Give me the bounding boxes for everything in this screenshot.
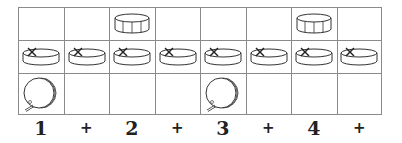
grid-cell[interactable] [246,40,292,73]
row-bass-drum [18,73,382,115]
grid-cell[interactable] [200,7,246,40]
grid-cell[interactable] [64,73,110,115]
grid-cell[interactable] [337,40,383,73]
count-beat: 2 [109,116,155,140]
row-snare [18,7,382,40]
hi-hat-icon [249,46,289,68]
grid-cell[interactable] [18,7,64,40]
grid-cell[interactable] [109,7,155,40]
grid-cell[interactable] [200,40,246,73]
beat-counts: 1+2+3+4+ [18,116,382,140]
grid-cell[interactable] [200,73,246,115]
hi-hat-icon [67,46,107,68]
grid-cell[interactable] [155,73,201,115]
grid-cell[interactable] [291,73,337,115]
grid-cell[interactable] [109,40,155,73]
grid-cell[interactable] [337,7,383,40]
grid-cell[interactable] [155,7,201,40]
grid-cell[interactable] [64,7,110,40]
count-and: + [64,116,110,140]
grid-cell[interactable] [18,40,64,73]
count-and: + [337,116,383,140]
grid-cell[interactable] [291,7,337,40]
grid-cell[interactable] [291,40,337,73]
row-hi-hat [18,40,382,73]
grid-cell[interactable] [337,73,383,115]
hi-hat-icon [112,46,152,68]
grid-cell[interactable] [109,73,155,115]
bass-drum-icon [22,75,60,113]
hi-hat-icon [339,46,379,68]
count-beat: 1 [18,116,64,140]
bass-drum-icon [204,75,242,113]
grid-cell[interactable] [64,40,110,73]
snare-drum-icon [113,12,151,36]
snare-drum-icon [295,12,333,36]
hi-hat-icon [21,46,61,68]
grid-cell[interactable] [18,73,64,115]
beat-grid [18,7,382,114]
count-beat: 3 [200,116,246,140]
count-and: + [155,116,201,140]
grid-cell[interactable] [246,7,292,40]
count-and: + [246,116,292,140]
count-beat: 4 [291,116,337,140]
hi-hat-icon [294,46,334,68]
grid-cell[interactable] [155,40,201,73]
grid-cell[interactable] [246,73,292,115]
hi-hat-icon [158,46,198,68]
hi-hat-icon [203,46,243,68]
